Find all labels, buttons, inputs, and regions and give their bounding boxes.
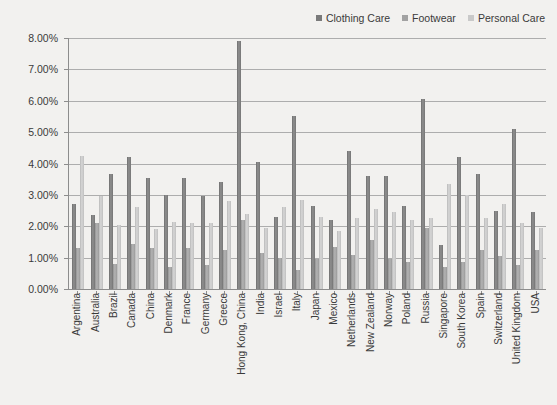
x-axis-tick-label: Japan: [311, 293, 321, 320]
legend-swatch-clothing-care: [316, 15, 322, 21]
bar-group: [289, 38, 307, 289]
y-axis-tick-label: 8.00%: [0, 33, 58, 43]
bar-group: [87, 38, 105, 289]
bar: [410, 220, 414, 289]
x-axis-label-cell: Mexico: [325, 291, 343, 403]
x-axis-tick-label: Australia: [91, 293, 101, 332]
x-axis-tick-label: Israel: [274, 293, 284, 317]
x-axis-tick-label: Germany: [201, 293, 211, 334]
x-axis-label-cell: New Zealand: [362, 291, 380, 403]
bar: [337, 231, 341, 289]
bar: [227, 201, 231, 289]
bar-group: [381, 38, 399, 289]
legend-label-clothing-care: Clothing Care: [326, 12, 390, 24]
bar: [282, 207, 286, 289]
bar: [447, 184, 451, 289]
bar: [264, 228, 268, 289]
plot-area: [68, 38, 546, 290]
x-axis-label-cell: Israel: [270, 291, 288, 403]
y-axis-tick-label: 7.00%: [0, 64, 58, 74]
x-axis-tick-label: India: [256, 293, 266, 315]
bar-group: [307, 38, 325, 289]
bar-group: [106, 38, 124, 289]
x-axis-label-cell: Australia: [86, 291, 104, 403]
y-axis-tick-label: 1.00%: [0, 253, 58, 263]
bar: [374, 209, 378, 289]
bar-group: [454, 38, 472, 289]
bar: [172, 222, 176, 289]
x-axis-tick-label: USA: [531, 293, 541, 314]
bar-group: [418, 38, 436, 289]
legend-label-footwear: Footwear: [412, 12, 456, 24]
x-axis-label-cell: Greece: [215, 291, 233, 403]
x-axis-label-cell: Italy: [288, 291, 306, 403]
x-axis-tick-label: Netherlands: [347, 293, 357, 347]
x-axis-label-cell: Denmark: [160, 291, 178, 403]
bar-group: [271, 38, 289, 289]
bar: [465, 195, 469, 289]
x-axis-tick-label: Greece: [219, 293, 229, 326]
bar-group: [326, 38, 344, 289]
x-axis-label-cell: Netherlands: [343, 291, 361, 403]
bar: [117, 225, 121, 289]
x-axis-label-cell: Spain: [472, 291, 490, 403]
y-axis: 0.00%1.00%2.00%3.00%4.00%5.00%6.00%7.00%…: [0, 0, 68, 300]
bar-group: [161, 38, 179, 289]
x-axis-label-cell: Brazil: [105, 291, 123, 403]
bar-group: [528, 38, 546, 289]
x-axis-tick-label: United Kingdom: [512, 293, 522, 364]
x-axis-tick-label: Canada: [127, 293, 137, 328]
x-axis-tick-label: Spain: [476, 293, 486, 319]
bar-group: [436, 38, 454, 289]
legend-item-footwear: Footwear: [402, 12, 456, 24]
x-axis-label-cell: Germany: [196, 291, 214, 403]
legend-swatch-footwear: [402, 15, 408, 21]
x-axis-tick-label: Mexico: [329, 293, 339, 325]
bar-group: [69, 38, 87, 289]
x-axis-label-cell: China: [141, 291, 159, 403]
x-axis-tick-label: Italy: [292, 293, 302, 311]
bar: [209, 223, 213, 289]
chart-container: Clothing Care Footwear Personal Care 0.0…: [0, 0, 557, 405]
x-axis-label-cell: USA: [527, 291, 545, 403]
x-axis-tick-label: Brazil: [109, 293, 119, 318]
bar-group: [124, 38, 142, 289]
bar: [319, 217, 323, 289]
bar-group: [509, 38, 527, 289]
x-axis-label-cell: United Kingdom: [508, 291, 526, 403]
x-axis-tick-label: China: [146, 293, 156, 319]
y-axis-tick-label: 5.00%: [0, 127, 58, 137]
bar: [135, 207, 139, 289]
y-axis-tick-label: 2.00%: [0, 221, 58, 231]
bar-group: [216, 38, 234, 289]
legend-item-personal-care: Personal Care: [468, 12, 545, 24]
legend-item-clothing-care: Clothing Care: [316, 12, 390, 24]
x-axis-tick-label: South Korea: [457, 293, 467, 349]
bar-group: [142, 38, 160, 289]
bar: [99, 196, 103, 289]
x-axis-label-cell: Canada: [123, 291, 141, 403]
bar: [392, 212, 396, 289]
bar-group: [473, 38, 491, 289]
x-axis-tick-label: Switzerland: [494, 293, 504, 345]
bar: [292, 116, 296, 289]
x-axis-label-cell: Russia: [417, 291, 435, 403]
x-axis-tick-label: Norway: [384, 293, 394, 327]
x-axis-tick-label: Poland: [402, 293, 412, 324]
bar: [429, 218, 433, 289]
x-axis-label-cell: Singapore: [435, 291, 453, 403]
x-axis-label-cell: Hong Kong, China: [233, 291, 251, 403]
bar-group: [252, 38, 270, 289]
x-axis-label-cell: Switzerland: [490, 291, 508, 403]
y-axis-tick-label: 3.00%: [0, 190, 58, 200]
bar-group: [234, 38, 252, 289]
bar-group: [399, 38, 417, 289]
bar: [80, 156, 84, 289]
chart-legend: Clothing Care Footwear Personal Care: [0, 12, 545, 24]
bar-group: [344, 38, 362, 289]
x-axis-label-cell: France: [178, 291, 196, 403]
bar: [355, 218, 359, 289]
x-axis-label-cell: South Korea: [453, 291, 471, 403]
bar: [154, 229, 158, 289]
bar: [502, 204, 506, 289]
